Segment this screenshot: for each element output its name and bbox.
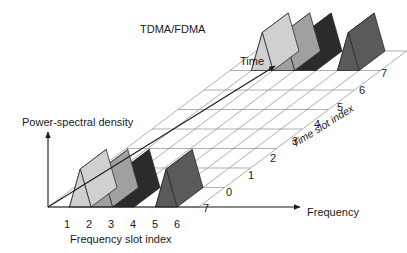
axis-label-time: Time	[240, 56, 264, 67]
tick-frequency-5: 5	[152, 219, 158, 230]
tick-time-2: 2	[270, 153, 276, 164]
axis-label-frequency-slot-index: Frequency slot index	[70, 234, 172, 245]
tick-time-5: 5	[337, 102, 343, 113]
tick-time-6: 6	[359, 85, 365, 96]
axis-label-power-spectral-density: Power-spectral density	[22, 117, 133, 128]
tick-frequency-6: 6	[174, 219, 180, 230]
tick-time-1: 1	[248, 170, 254, 181]
tick-frequency-3: 3	[108, 219, 114, 230]
axis-label-frequency: Frequency	[307, 207, 359, 218]
tick-frequency-1: 1	[64, 219, 70, 230]
tick-time-7: 7	[381, 68, 387, 79]
tick-time-0: 0	[226, 187, 232, 198]
tick-time-7: 7	[203, 203, 209, 214]
tick-time-3: 3	[292, 136, 298, 147]
page-title: TDMA/FDMA	[140, 24, 205, 35]
tick-time-4: 4	[314, 119, 320, 130]
tick-frequency-2: 2	[86, 219, 92, 230]
tick-frequency-4: 4	[130, 219, 136, 230]
